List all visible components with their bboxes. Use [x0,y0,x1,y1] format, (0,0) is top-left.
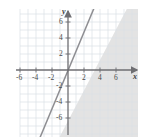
x-tick-label-6: 6 [114,74,118,82]
y-tick-label-neg6: -6 [56,114,62,122]
y-tick-label-6: 6 [59,18,63,26]
y-tick-label-4: 4 [59,34,63,42]
y-tick-label-neg2: -2 [56,82,62,90]
graph-figure: 5. [0,0,142,140]
x-tick-label-4: 4 [98,74,102,82]
y-tick-label-2: 2 [59,50,63,58]
x-axis-label: x [133,73,137,81]
x-tick-label-neg4: -4 [32,74,38,82]
y-tick-label-neg4: -4 [56,98,62,106]
x-tick-label-2: 2 [82,74,86,82]
y-axis-label: y [62,8,66,16]
x-tick-label-neg6: -6 [16,74,22,82]
x-tick-label-neg2: -2 [48,74,54,82]
coordinate-plane-plot [0,0,142,140]
